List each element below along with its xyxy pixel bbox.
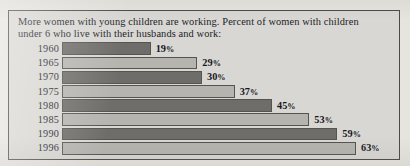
chart-frame: More women with young children are worki…	[8, 10, 400, 160]
year-label: 1980	[9, 99, 59, 113]
chart-caption: More women with young children are worki…	[18, 16, 392, 39]
bar-value-number: 30	[207, 71, 217, 82]
bar-value-label: 53%	[314, 113, 332, 127]
percent-sign: %	[217, 73, 225, 82]
bar[interactable]	[62, 113, 309, 126]
bar-track: 29%	[62, 56, 399, 70]
year-label: 1996	[9, 141, 59, 155]
bar-value-number: 53	[314, 114, 324, 125]
bar[interactable]	[62, 142, 356, 155]
bar-row: 199059%	[9, 127, 399, 141]
bar-value-number: 37	[240, 86, 250, 97]
chart-screenshot: More women with young children are worki…	[0, 0, 410, 166]
bar[interactable]	[62, 42, 151, 55]
caption-line-2: under 6 who live with their husbands and…	[18, 28, 392, 40]
bar-value-number: 45	[277, 100, 287, 111]
bar-rows-container: 196019%196529%197030%197537%198045%19855…	[9, 42, 399, 158]
bar-value-label: 63%	[361, 141, 379, 155]
bar-track: 53%	[62, 113, 399, 127]
year-label: 1975	[9, 85, 59, 99]
year-label: 1965	[9, 56, 59, 70]
percent-sign: %	[371, 144, 379, 153]
bar-value-number: 29	[202, 57, 212, 68]
bar-value-label: 45%	[277, 99, 295, 113]
percent-sign: %	[353, 130, 361, 139]
bar[interactable]	[62, 71, 202, 84]
bar-track: 63%	[62, 141, 399, 155]
bar-track: 37%	[62, 85, 399, 99]
percent-sign: %	[213, 59, 221, 68]
bar[interactable]	[62, 128, 337, 141]
bar[interactable]	[62, 99, 272, 112]
bar-value-number: 63	[361, 142, 371, 153]
bar[interactable]	[62, 85, 235, 98]
bar-row: 197537%	[9, 85, 399, 99]
bar-track: 30%	[62, 70, 399, 84]
caption-line-1: More women with young children are worki…	[18, 16, 392, 28]
year-label: 1960	[9, 42, 59, 56]
bar-value-label: 59%	[342, 127, 360, 141]
bar-track: 19%	[62, 42, 399, 56]
year-label: 1970	[9, 70, 59, 84]
bar-row: 198045%	[9, 99, 399, 113]
year-label: 1990	[9, 127, 59, 141]
bar-value-label: 19%	[156, 42, 174, 56]
percent-sign: %	[325, 115, 333, 124]
bar-track: 45%	[62, 99, 399, 113]
bar-track: 59%	[62, 127, 399, 141]
bar-value-number: 19	[156, 43, 166, 54]
percent-sign: %	[250, 87, 258, 96]
bar-value-label: 29%	[202, 56, 220, 70]
bar-row: 196529%	[9, 56, 399, 70]
bar-row: 197030%	[9, 70, 399, 84]
bar[interactable]	[62, 57, 197, 70]
year-label: 1985	[9, 113, 59, 127]
bar-value-label: 37%	[240, 85, 258, 99]
bar-row: 199663%	[9, 141, 399, 155]
percent-sign: %	[166, 45, 174, 54]
bar-value-number: 59	[342, 128, 352, 139]
bar-row: 198553%	[9, 113, 399, 127]
percent-sign: %	[287, 101, 295, 110]
bar-value-label: 30%	[207, 70, 225, 84]
bar-row: 196019%	[9, 42, 399, 56]
